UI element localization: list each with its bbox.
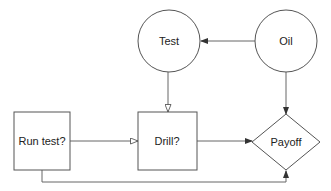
node-payoff[interactable]: Payoff	[252, 114, 320, 170]
node-label-drill: Drill?	[154, 135, 179, 147]
node-oil[interactable]: Oil	[255, 10, 317, 72]
influence-diagram: Test Oil Run test? Drill? Payoff	[0, 0, 331, 191]
node-label-run-test: Run test?	[18, 135, 65, 147]
node-label-payoff: Payoff	[271, 136, 303, 148]
node-test[interactable]: Test	[138, 10, 200, 72]
edge-runtest-to-payoff	[42, 170, 286, 182]
node-run-test[interactable]: Run test?	[14, 112, 70, 170]
node-label-oil: Oil	[279, 35, 292, 47]
node-drill[interactable]: Drill?	[138, 112, 197, 170]
node-label-test: Test	[159, 35, 179, 47]
